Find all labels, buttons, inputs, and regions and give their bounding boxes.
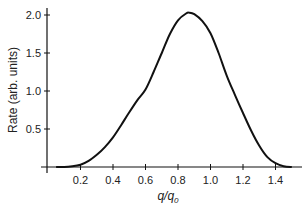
x-axis-title-main: q/q: [157, 189, 174, 203]
y-axis-title: Rate (arb. units): [6, 47, 20, 133]
rate-curve: [56, 13, 292, 167]
x-tick-label: 1.4: [268, 174, 283, 186]
x-tick-label: 0.4: [105, 174, 120, 186]
y-tick-label: 0.5: [26, 123, 41, 135]
x-tick-label: 1.2: [235, 174, 250, 186]
y-ticks: 0.51.01.52.0: [26, 9, 50, 135]
x-tick-label: 0.6: [138, 174, 153, 186]
x-axis-title: q/q0: [157, 189, 179, 205]
y-tick-label: 2.0: [26, 9, 41, 21]
y-tick-label: 1.5: [26, 47, 41, 59]
line-chart: 0.51.01.52.0 0.20.40.60.81.01.21.4 Rate …: [0, 0, 308, 210]
x-axis-title-subscript: 0: [174, 196, 179, 205]
y-tick-label: 1.0: [26, 85, 41, 97]
x-tick-label: 0.2: [73, 174, 88, 186]
x-tick-label: 1.0: [203, 174, 218, 186]
x-tick-label: 0.8: [170, 174, 185, 186]
